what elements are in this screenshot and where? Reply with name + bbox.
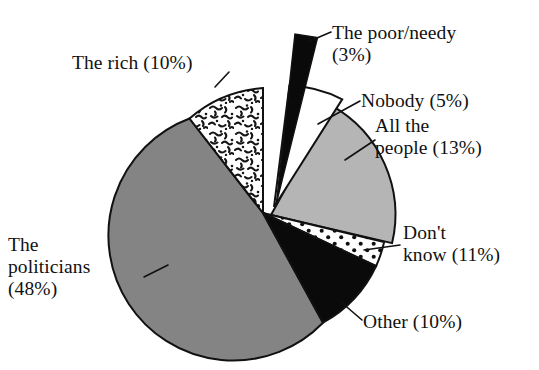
pie-chart-figure: The poor/needy (3%) Nobody (5%) All the …: [0, 0, 539, 370]
slice-label-dont-know: Don't know (11%): [403, 222, 539, 266]
slice-label-other: Other (10%): [363, 311, 523, 333]
leader-line-the-rich: [215, 72, 229, 87]
leader-line-other: [341, 302, 362, 320]
slice-label-the-politicians: The politicians (48%): [8, 234, 158, 299]
slice-label-the-poor-needy: The poor/needy (3%): [332, 22, 532, 66]
slice-label-nobody: Nobody (5%): [361, 90, 536, 112]
slice-label-the-rich: The rich (10%): [72, 52, 262, 74]
slice-label-all-the-people: All the people (13%): [375, 115, 535, 159]
